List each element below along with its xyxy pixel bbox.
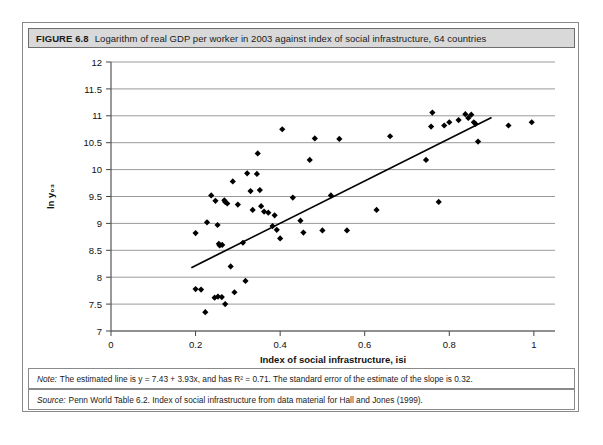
data-point-marker	[231, 289, 237, 295]
data-point-marker	[208, 192, 214, 198]
data-point-marker	[455, 117, 461, 123]
scatter-plot-svg: 77.588.599.51010.51111.512 00.20.40.60.8…	[28, 50, 575, 368]
data-point-marker	[279, 126, 285, 132]
y-axis-label-text: ln y₀₃	[45, 184, 56, 209]
x-tick-label: 0.2	[189, 339, 202, 350]
data-point-marker	[254, 171, 260, 177]
data-point-marker	[300, 229, 306, 235]
y-tick-label: 7	[97, 326, 102, 337]
data-point-marker	[214, 222, 220, 228]
x-tick-label: 0.8	[443, 339, 456, 350]
regression-line-segment	[191, 118, 491, 268]
y-tick-label: 7.5	[89, 299, 102, 310]
data-point-marker	[272, 212, 278, 218]
y-tick-label: 10	[91, 164, 102, 175]
data-point-marker	[297, 218, 303, 224]
data-point-marker	[255, 150, 261, 156]
data-point-marker	[312, 135, 318, 141]
data-point-marker	[242, 278, 248, 284]
data-point-marker	[529, 119, 535, 125]
data-point-marker	[228, 263, 234, 269]
data-point-marker	[423, 157, 429, 163]
figure-note-row: Note: The estimated line is y = 7.43 + 3…	[28, 368, 575, 389]
source-lead-label: Source:	[37, 395, 66, 405]
y-tick-label: 12	[91, 57, 102, 68]
x-tick-label: 0.4	[274, 339, 287, 350]
data-point-marker	[235, 201, 241, 207]
data-point-marker	[219, 294, 225, 300]
y-tick-label: 9	[97, 218, 102, 229]
data-point-marker	[202, 309, 208, 315]
data-point-marker	[277, 235, 283, 241]
data-point-marker	[247, 188, 253, 194]
data-point-marker	[428, 123, 434, 129]
note-lead-label: Note:	[37, 374, 57, 384]
y-tick-label: 8.5	[89, 245, 102, 256]
data-point-marker	[212, 198, 218, 204]
data-point-marker	[336, 136, 342, 142]
y-tick-label: 11	[92, 110, 102, 121]
data-point-marker	[204, 219, 210, 225]
figure-number-label: FIGURE 6.8	[36, 33, 89, 44]
data-points	[192, 109, 534, 315]
y-tick-label: 8	[97, 272, 102, 283]
x-axis-ticks: 00.20.40.60.81	[108, 331, 536, 350]
data-point-marker	[250, 207, 256, 213]
figure-source-row: Source: Penn World Table 6.2. Index of s…	[28, 389, 575, 410]
data-point-marker	[198, 286, 204, 292]
data-point-marker	[192, 230, 198, 236]
note-text: The estimated line is y = 7.43 + 3.93x, …	[60, 374, 473, 384]
data-point-marker	[192, 286, 198, 292]
data-point-marker	[505, 122, 511, 128]
x-tick-label: 0.6	[358, 339, 371, 350]
x-axis-label: Index of social infrastructure, isi	[260, 354, 406, 365]
data-point-marker	[429, 109, 435, 115]
data-point-marker	[222, 301, 228, 307]
data-point-marker	[436, 199, 442, 205]
y-axis-label: ln y₀₃	[45, 184, 56, 209]
data-point-marker	[290, 194, 296, 200]
y-tick-label: 10.5	[84, 137, 103, 148]
data-point-marker	[344, 227, 350, 233]
y-axis-ticks: 77.588.599.51010.51111.512	[84, 57, 112, 337]
chart-plot-area: 77.588.599.51010.51111.512 00.20.40.60.8…	[28, 50, 575, 368]
y-tick-label: 11.5	[84, 84, 102, 95]
source-text: Penn World Table 6.2. Index of social in…	[69, 395, 423, 405]
data-point-marker	[387, 133, 393, 139]
data-point-marker	[446, 119, 452, 125]
regression-line	[191, 118, 491, 268]
data-point-marker	[319, 227, 325, 233]
figure-caption: Logarithm of real GDP per worker in 2003…	[95, 33, 487, 44]
y-tick-label: 9.5	[89, 191, 102, 202]
data-point-marker	[244, 170, 250, 176]
data-point-marker	[274, 227, 280, 233]
data-point-marker	[475, 139, 481, 145]
data-point-marker	[230, 178, 236, 184]
x-tick-label: 1	[531, 339, 536, 350]
data-point-marker	[261, 208, 267, 214]
data-point-marker	[307, 157, 313, 163]
data-point-marker	[265, 210, 271, 216]
x-axis-label-text: Index of social infrastructure, isi	[260, 354, 406, 365]
x-tick-label: 0	[108, 339, 113, 350]
data-point-marker	[441, 122, 447, 128]
data-point-marker	[373, 207, 379, 213]
figure-box: FIGURE 6.8 Logarithm of real GDP per wor…	[22, 22, 579, 412]
figure-title-bar: FIGURE 6.8 Logarithm of real GDP per wor…	[28, 28, 575, 48]
data-point-marker	[258, 203, 264, 209]
data-point-marker	[257, 187, 263, 193]
